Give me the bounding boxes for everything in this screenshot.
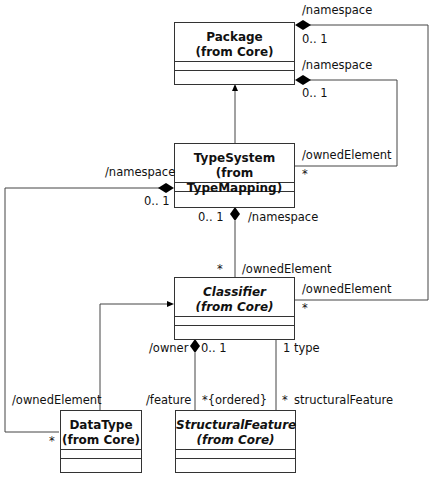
composition-diamond-icon — [295, 20, 311, 30]
class-title: TypeSystem — [175, 151, 294, 166]
multiplicity-label: 0.. 1 — [144, 195, 170, 208]
attributes-compartment — [61, 449, 141, 458]
class-name: Package (from Core) — [175, 23, 294, 61]
class-package[interactable]: Package (from Core) — [174, 22, 295, 85]
composition-diamond-icon — [295, 75, 311, 85]
role-label: /namespace — [302, 4, 372, 17]
multiplicity-label: 0.. 1 — [198, 211, 224, 224]
role-label: /namespace — [105, 166, 175, 179]
role-label: 1 type — [283, 342, 320, 355]
class-name: StructuralFeature (from Core) — [176, 411, 295, 449]
multiplicity-label: 0.. 1 — [302, 87, 328, 100]
composition-diamond-icon — [230, 207, 240, 221]
attributes-compartment — [176, 449, 295, 458]
attributes-compartment — [175, 61, 294, 70]
class-datatype[interactable]: DataType (from Core) — [60, 410, 142, 473]
multiplicity-label: *{ordered} — [202, 394, 267, 407]
class-structuralfeature[interactable]: StructuralFeature (from Core) — [175, 410, 296, 473]
class-origin: (from Core) — [61, 433, 141, 448]
multiplicity-label: * — [302, 302, 308, 315]
role-label: /ownedElement — [302, 283, 392, 296]
multiplicity-label: * — [302, 168, 308, 181]
class-title: Classifier — [175, 285, 294, 300]
multiplicity-label: * — [282, 394, 288, 407]
class-classifier[interactable]: Classifier (from Core) — [174, 277, 295, 340]
operations-compartment — [61, 458, 141, 474]
class-origin: (from TypeMapping) — [175, 166, 294, 196]
role-label: /ownedElement — [242, 263, 332, 276]
composition-diamond-icon — [190, 339, 200, 353]
role-label: /feature — [146, 394, 191, 407]
operations-compartment — [176, 458, 295, 474]
multiplicity-label: * — [49, 435, 55, 448]
operations-compartment — [175, 325, 294, 341]
class-origin: (from Core) — [176, 433, 295, 448]
class-name: Classifier (from Core) — [175, 278, 294, 316]
class-name: TypeSystem (from TypeMapping) — [175, 144, 294, 182]
role-label: structuralFeature — [294, 394, 393, 407]
operations-compartment — [175, 70, 294, 86]
role-label: /owner — [149, 342, 188, 355]
multiplicity-label: 0.. 1 — [302, 33, 328, 46]
role-label: /namespace — [248, 211, 318, 224]
role-label: /ownedElement — [12, 394, 102, 407]
role-label: /ownedElement — [302, 149, 392, 162]
class-title: DataType — [61, 418, 141, 433]
generalization-arrow-icon — [167, 301, 174, 307]
class-origin: (from Core) — [175, 45, 294, 60]
multiplicity-label: 0.. 1 — [201, 342, 227, 355]
class-title: StructuralFeature — [176, 418, 295, 433]
class-name: DataType (from Core) — [61, 411, 141, 449]
composition-diamond-icon — [158, 183, 174, 193]
class-typesystem[interactable]: TypeSystem (from TypeMapping) — [174, 143, 295, 208]
class-title: Package — [175, 30, 294, 45]
class-origin: (from Core) — [175, 300, 294, 315]
attributes-compartment — [175, 316, 294, 325]
multiplicity-label: * — [217, 263, 223, 276]
role-label: /namespace — [302, 59, 372, 72]
